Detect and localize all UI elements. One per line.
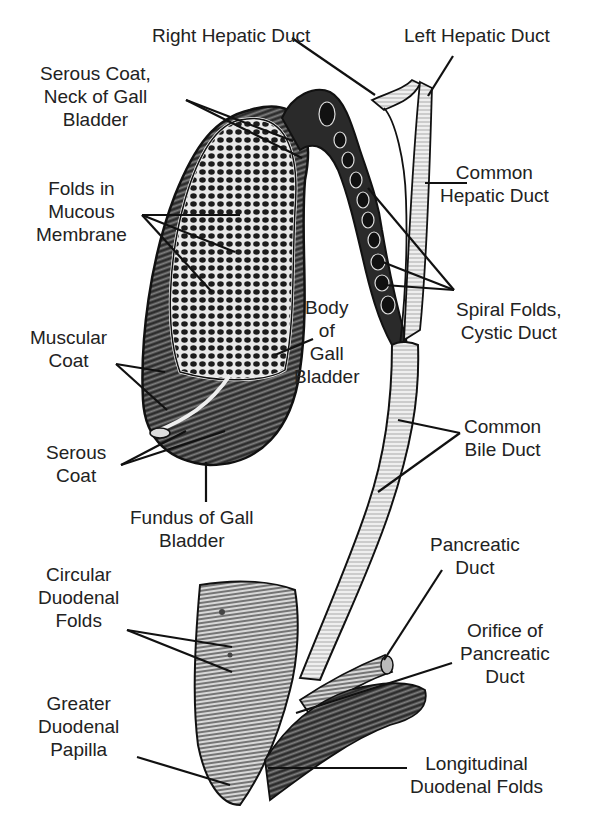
label-folds-mucous-membrane: Folds in Mucous Membrane [36, 177, 127, 246]
label-body-of-gall-bladder: Body of Gall Bladder [294, 296, 360, 388]
label-right-hepatic-duct: Right Hepatic Duct [152, 24, 310, 47]
common-bile-duct-drawing [300, 342, 418, 680]
label-orifice-of-pancreatic-duct: Orifice of Pancreatic Duct [460, 619, 550, 688]
label-circular-duodenal-folds: Circular Duodenal Folds [38, 563, 119, 632]
label-muscular-coat: Muscular Coat [30, 326, 107, 372]
gall-bladder [142, 106, 307, 465]
label-greater-duodenal-papilla: Greater Duodenal Papilla [38, 692, 119, 761]
label-spiral-folds-cystic-duct: Spiral Folds, Cystic Duct [456, 298, 562, 344]
label-common-bile-duct: Common Bile Duct [464, 415, 541, 461]
label-serous-coat-neck: Serous Coat, Neck of Gall Bladder [40, 62, 151, 131]
label-fundus-of-gall-bladder: Fundus of Gall Bladder [130, 506, 254, 552]
label-longitudinal-duodenal-folds: Longitudinal Duodenal Folds [410, 752, 543, 798]
label-common-hepatic-duct: Common Hepatic Duct [440, 161, 549, 207]
label-pancreatic-duct: Pancreatic Duct [430, 533, 520, 579]
label-serous-coat: Serous Coat [46, 441, 106, 487]
label-left-hepatic-duct: Left Hepatic Duct [404, 24, 550, 47]
